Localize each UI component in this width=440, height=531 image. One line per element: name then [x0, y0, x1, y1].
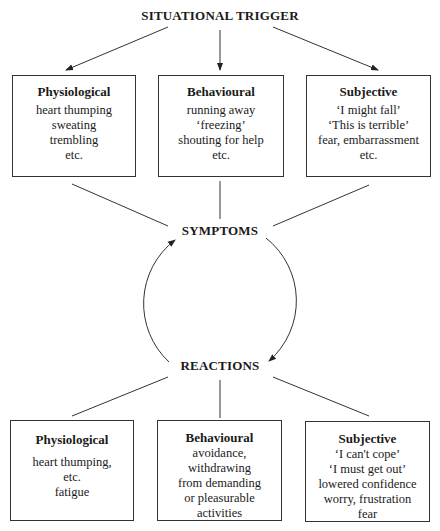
bottom-behavioural-box: Behavioural avoidance, withdrawing from …	[157, 420, 282, 521]
box-line: ‘I can't cope’	[306, 447, 429, 462]
box-line: lowered confidence	[306, 477, 429, 492]
box-heading: Physiological	[11, 432, 133, 447]
box-line: etc.	[159, 148, 283, 163]
box-line: running away	[159, 103, 283, 118]
box-line: avoidance,	[158, 446, 281, 461]
box-line: from demanding	[158, 476, 281, 491]
box-line: activities	[158, 506, 281, 521]
line-reactions-to-subjective	[273, 377, 369, 416]
arrow-trigger-to-subjective	[273, 27, 378, 70]
box-line: etc.	[307, 148, 430, 163]
top-behavioural-box: Behavioural running away ‘freezing’ shou…	[158, 75, 284, 177]
line-reactions-to-physiological	[72, 377, 168, 416]
box-line: trembling	[13, 133, 135, 148]
box-heading: Physiological	[13, 84, 135, 99]
cycle-arrow-symptoms-to-reactions	[266, 238, 296, 361]
box-heading: Subjective	[306, 431, 429, 446]
box-line: ‘I might fall’	[307, 103, 430, 118]
box-line: shouting for help	[159, 133, 283, 148]
box-line: or pleasurable	[158, 491, 281, 506]
cycle-arrow-reactions-to-symptoms	[144, 240, 175, 362]
box-line: withdrawing	[158, 461, 281, 476]
line-physiological-to-symptoms	[72, 184, 168, 226]
box-line: sweating	[13, 118, 135, 133]
box-line: ‘I must get out’	[306, 462, 429, 477]
box-heading: Subjective	[307, 84, 430, 99]
top-subjective-box: Subjective ‘I might fall’ ‘This is terri…	[306, 75, 431, 177]
symptoms-label: SYMPTOMS	[140, 223, 300, 239]
box-line: fear	[306, 507, 429, 522]
box-line: ‘This is terrible’	[307, 118, 430, 133]
box-line: fear, embarrassment	[307, 133, 430, 148]
box-line: etc.	[11, 470, 133, 485]
box-line: heart thumping	[13, 103, 135, 118]
arrow-trigger-to-physiological	[66, 27, 168, 70]
box-line: fatigue	[11, 485, 133, 500]
line-subjective-to-symptoms	[273, 185, 369, 226]
box-line: heart thumping,	[11, 455, 133, 470]
situational-trigger-label: SITUATIONAL TRIGGER	[120, 8, 320, 24]
box-line: ‘freezing’	[159, 118, 283, 133]
top-physiological-box: Physiological heart thumping sweating tr…	[12, 75, 136, 177]
bottom-subjective-box: Subjective ‘I can't cope’ ‘I must get ou…	[305, 421, 430, 522]
bottom-physiological-box: Physiological heart thumping, etc. fatig…	[10, 420, 134, 521]
box-heading: Behavioural	[158, 430, 281, 445]
box-line: etc.	[13, 148, 135, 163]
box-line: worry, frustration	[306, 492, 429, 507]
reactions-label: REACTIONS	[140, 358, 300, 374]
box-heading: Behavioural	[159, 84, 283, 99]
